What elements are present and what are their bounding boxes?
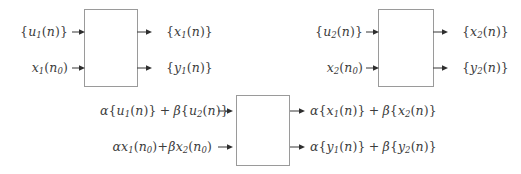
arrow-output-alpha-y1-beta-y2 <box>290 142 306 152</box>
arrow-output-y2 <box>433 63 449 73</box>
label-output-y2: {y2(n)} <box>462 62 509 75</box>
label-input-x1n0: x1(n0) <box>8 62 68 75</box>
linearity-block-diagram: {u1(n)} x1(n0) {x1(n)} {y1(n)} <box>0 0 521 174</box>
arrow-output-x2 <box>433 27 449 37</box>
label-input-u2: {u2(n)} <box>303 26 363 39</box>
arrow-output-y1 <box>137 63 153 73</box>
system-block-1 <box>84 9 138 87</box>
system-block-2 <box>378 9 434 87</box>
label-input-x2n0: x2(n0) <box>303 62 363 75</box>
arrow-input-alpha-x1n0-beta-x2n0 <box>218 142 234 152</box>
label-output-x2: {x2(n)} <box>462 26 509 39</box>
arrow-output-x1 <box>137 27 153 37</box>
label-output-x1: {x1(n)} <box>166 26 213 39</box>
label-input-alpha-u1-beta-u2: α{u1(n)}+β{u2(n)} <box>100 105 212 118</box>
label-output-y1: {y1(n)} <box>166 62 213 75</box>
label-input-u1: {u1(n)} <box>8 26 68 39</box>
label-input-alpha-x1n0-beta-x2n0: αx1(n0)+βx2(n0) <box>100 141 212 154</box>
label-output-alpha-y1-beta-y2: α{y1(n)}+β{y2(n)} <box>310 141 437 154</box>
arrow-output-alpha-x1-beta-x2 <box>290 106 306 116</box>
label-output-alpha-x1-beta-x2: α{x1(n)}+β{x2(n)} <box>310 105 437 118</box>
system-block-3 <box>236 95 290 166</box>
